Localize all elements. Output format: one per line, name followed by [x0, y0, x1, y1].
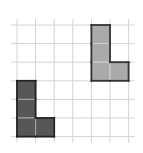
dark-l-shape: [17, 81, 54, 137]
shape-cell: [91, 62, 110, 81]
shape-cell: [17, 81, 36, 100]
shape-cell: [17, 99, 36, 118]
grid-diagram: [0, 0, 143, 153]
shape-cell: [91, 25, 110, 44]
light-l-shape: [91, 25, 128, 81]
shape-cell: [17, 118, 36, 137]
shape-cell: [91, 44, 110, 63]
shape-cell: [110, 62, 129, 81]
shape-cell: [36, 118, 55, 137]
